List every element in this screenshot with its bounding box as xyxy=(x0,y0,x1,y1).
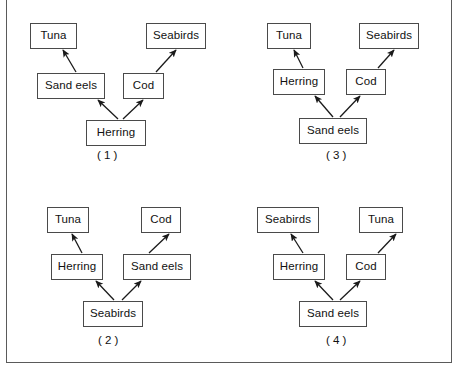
panel-label-panel-1: ( 1 ) xyxy=(97,149,117,161)
node-box-sand-eels: Sand eels xyxy=(37,73,105,99)
node-box-cod: Cod xyxy=(141,207,181,233)
node-box-herring: Herring xyxy=(86,120,146,146)
node-box-cod: Cod xyxy=(346,69,386,95)
page-root: TunaSeabirdsSand eelsCodHerring( 1 )Tuna… xyxy=(0,0,462,381)
node-box-seabirds: Seabirds xyxy=(83,301,143,327)
node-box-herring: Herring xyxy=(273,69,325,95)
panel-label-panel-3: ( 3 ) xyxy=(326,149,346,161)
node-box-tuna: Tuna xyxy=(30,23,77,49)
node-layer: TunaSeabirdsSand eelsCodHerring( 1 )Tuna… xyxy=(1,1,447,368)
node-box-cod: Cod xyxy=(123,73,164,99)
node-box-herring: Herring xyxy=(51,254,103,280)
panel-label-panel-4: ( 4 ) xyxy=(326,334,346,346)
node-box-sand-eels: Sand eels xyxy=(299,118,367,144)
node-box-sand-eels: Sand eels xyxy=(123,254,191,280)
node-box-tuna: Tuna xyxy=(267,23,311,49)
node-box-herring: Herring xyxy=(273,254,325,280)
node-box-seabirds: Seabirds xyxy=(257,207,319,233)
node-box-sand-eels: Sand eels xyxy=(299,301,367,327)
node-box-tuna: Tuna xyxy=(359,207,403,233)
node-box-tuna: Tuna xyxy=(47,207,89,233)
node-box-seabirds: Seabirds xyxy=(359,23,419,49)
node-box-cod: Cod xyxy=(346,254,386,280)
figure-frame: TunaSeabirdsSand eelsCodHerring( 1 )Tuna… xyxy=(6,0,452,363)
node-box-seabirds: Seabirds xyxy=(146,23,206,49)
panel-label-panel-2: ( 2 ) xyxy=(98,334,118,346)
